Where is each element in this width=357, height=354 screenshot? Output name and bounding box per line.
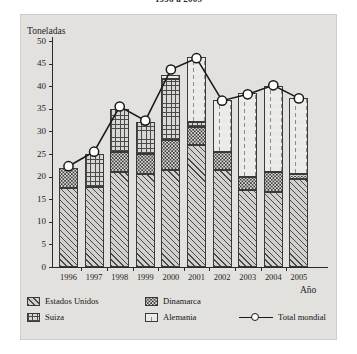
- chart-legend: Estados Unidos Dinamarca Suiza Alemania …: [27, 296, 332, 328]
- y-tick-label: 5: [26, 240, 46, 249]
- y-tick-mark: [49, 64, 53, 65]
- bar-segment: [213, 100, 232, 152]
- x-tick-label: 1999: [133, 273, 159, 282]
- x-tick-mark: [107, 268, 108, 271]
- chart-figure: 1996 a 2005 Toneladas Año 05101520253035…: [0, 0, 357, 354]
- x-tick-label: 2004: [261, 273, 287, 282]
- bar-segment: [136, 154, 155, 174]
- y-tick-label: 40: [26, 82, 46, 91]
- bar-segment: [289, 179, 308, 267]
- y-tick-label: 50: [26, 37, 46, 46]
- plot-area: 05101520253035404550 1996199719981999200…: [25, 16, 332, 288]
- x-tick-label: 1998: [107, 273, 133, 282]
- y-tick-mark: [49, 131, 53, 132]
- legend-label-estados-unidos: Estados Unidos: [45, 296, 99, 306]
- y-tick-mark: [49, 86, 53, 87]
- x-tick-label: 2001: [184, 273, 210, 282]
- bar-segment: [161, 75, 180, 80]
- bar-segment: [187, 57, 206, 123]
- bar-segment: [238, 190, 257, 267]
- bar-segment: [264, 86, 283, 172]
- bar-segment: [136, 174, 155, 267]
- bar-segment: [85, 154, 104, 187]
- legend-label-alemania: Alemania: [163, 312, 196, 322]
- y-tick-mark: [49, 177, 53, 178]
- legend-line-marker-icon: [239, 313, 273, 322]
- bar-segment: [59, 168, 78, 188]
- bar-segment: [289, 98, 308, 175]
- legend-row-1: Estados Unidos Dinamarca: [27, 296, 332, 312]
- y-tick-label: 30: [26, 127, 46, 136]
- y-tick-label: 45: [26, 59, 46, 68]
- legend-swatch-suiza: [27, 313, 40, 322]
- y-tick-label: 10: [26, 217, 46, 226]
- bar-segment: [238, 177, 257, 191]
- legend-item-estados-unidos[interactable]: Estados Unidos: [27, 296, 99, 306]
- bar-segment: [110, 152, 129, 172]
- legend-label-dinamarca: Dinamarca: [163, 296, 201, 306]
- bar-segment: [110, 109, 129, 152]
- legend-swatch-estados-unidos: [27, 297, 40, 306]
- bar-segment: [59, 188, 78, 267]
- chart-title: 1996 a 2005: [0, 0, 357, 4]
- y-tick-mark: [49, 267, 53, 268]
- legend-item-alemania[interactable]: Alemania: [145, 312, 196, 322]
- bar-segment: [110, 172, 129, 267]
- total-mondial-marker: [166, 65, 175, 74]
- x-tick-mark: [81, 268, 82, 271]
- bar-segment: [213, 170, 232, 267]
- x-tick-mark: [261, 268, 262, 271]
- y-tick-mark: [49, 154, 53, 155]
- legend-swatch-dinamarca: [145, 297, 158, 306]
- y-tick-mark: [49, 199, 53, 200]
- legend-label-total-mondial: Total mondial: [278, 312, 326, 322]
- y-tick-label: 15: [26, 195, 46, 204]
- x-tick-mark: [286, 268, 287, 271]
- y-tick-label: 35: [26, 104, 46, 113]
- bar-segment: [85, 187, 104, 267]
- bar-segment: [187, 145, 206, 267]
- legend-label-suiza: Suiza: [45, 312, 64, 322]
- x-tick-mark: [184, 268, 185, 271]
- bar-segment: [187, 122, 206, 127]
- legend-row-2: Suiza Alemania Total mondial: [27, 312, 332, 328]
- x-tick-mark: [209, 268, 210, 271]
- y-tick-mark: [49, 109, 53, 110]
- x-tick-label: 2002: [209, 273, 235, 282]
- x-tick-mark: [158, 268, 159, 271]
- x-tick-mark: [235, 268, 236, 271]
- bar-segment: [136, 122, 155, 154]
- bar-segment: [187, 127, 206, 145]
- y-tick-label: 20: [26, 172, 46, 181]
- x-tick-label: 1996: [56, 273, 82, 282]
- x-tick-label: 2000: [158, 273, 184, 282]
- bar-segment: [264, 172, 283, 192]
- y-tick-mark: [49, 222, 53, 223]
- y-tick-mark: [49, 244, 53, 245]
- y-tick-label: 25: [26, 150, 46, 159]
- x-tick-label: 2005: [286, 273, 312, 282]
- bar-segment: [161, 140, 180, 169]
- bar-segment: [238, 93, 257, 177]
- x-tick-label: 1997: [81, 273, 107, 282]
- y-axis-line: [52, 37, 53, 268]
- legend-item-dinamarca[interactable]: Dinamarca: [145, 296, 201, 306]
- legend-item-total-mondial[interactable]: Total mondial: [239, 312, 326, 322]
- bar-segment: [161, 170, 180, 267]
- bar-segment: [213, 152, 232, 170]
- legend-swatch-alemania: [145, 313, 158, 322]
- x-tick-mark: [133, 268, 134, 271]
- y-tick-label: 0: [26, 263, 46, 272]
- x-tick-label: 2003: [235, 273, 261, 282]
- bar-segment: [161, 79, 180, 140]
- legend-item-suiza[interactable]: Suiza: [27, 312, 64, 322]
- bar-segment: [264, 192, 283, 267]
- y-tick-mark: [49, 41, 53, 42]
- bar-segment: [289, 174, 308, 179]
